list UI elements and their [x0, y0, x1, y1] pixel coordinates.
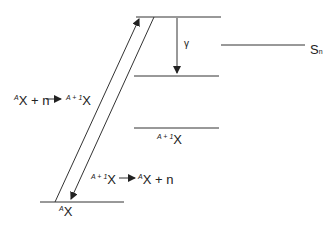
- capture-reaction-label: AX + n: [14, 94, 49, 107]
- capture-x2: X: [82, 93, 91, 108]
- gamma-label: γ: [184, 39, 189, 49]
- diagram-lines: [0, 0, 334, 225]
- capture-x1: X + n: [19, 93, 50, 108]
- emission-product-label: AX + n: [138, 173, 173, 186]
- energy-level-diagram: γ Sn AX + n A + 1X A + 1X A + 1X AX + n …: [0, 0, 334, 225]
- capture-sup2: A + 1: [66, 94, 82, 101]
- compound-ground-label: A + 1X: [157, 133, 182, 146]
- capture-product-label: A + 1X: [66, 94, 91, 107]
- compound-main: X: [173, 132, 182, 147]
- emission-sup1: A + 1: [91, 173, 107, 180]
- emission-x2: X + n: [143, 172, 174, 187]
- emission-reaction-label: A + 1X: [91, 173, 116, 186]
- sn-main: S: [310, 42, 319, 57]
- compound-sup: A + 1: [157, 133, 173, 140]
- target-main: X: [64, 204, 73, 219]
- sn-sub: n: [319, 48, 323, 55]
- target-ground-label: AX: [59, 205, 72, 218]
- separation-energy-label: Sn: [310, 43, 323, 56]
- emission-x1: X: [107, 172, 116, 187]
